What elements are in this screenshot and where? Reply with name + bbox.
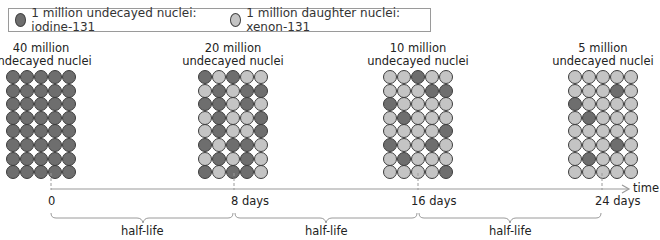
time-tick-0: 0 [48,194,55,208]
time-tick-2: 16 days [411,194,456,208]
half-life-brace-0 [51,213,233,223]
timeline [0,0,660,240]
half-life-brace-2 [419,213,601,223]
half-life-brace-1 [235,213,417,223]
time-tick-1: 8 days [231,194,269,208]
half-life-label-1: half-life [305,224,348,238]
axis-label: time [633,181,659,195]
half-life-label-0: half-life [121,224,164,238]
half-life-label-2: half-life [489,224,532,238]
time-tick-3: 24 days [595,194,640,208]
